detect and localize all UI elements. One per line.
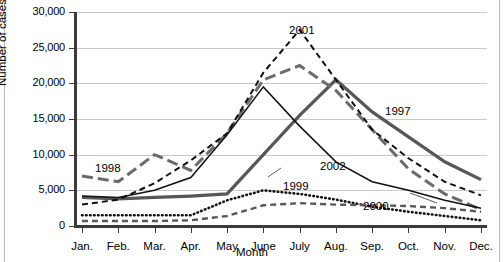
leader-line bbox=[410, 193, 437, 203]
annotation-leader-lines bbox=[0, 0, 504, 262]
leader-line bbox=[268, 168, 281, 177]
chart-figure: Number of cases Month 05,00010,00015,000… bbox=[0, 0, 504, 262]
